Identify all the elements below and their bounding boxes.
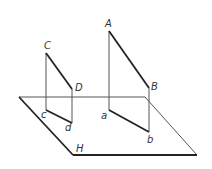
label-A: A [104,18,112,29]
segment-AB [109,31,149,88]
projection-diagram: A B a b C D c d H [0,0,212,169]
segment-ab [109,110,149,132]
label-B: B [151,81,158,92]
label-a: a [101,110,107,121]
label-D: D [75,82,83,93]
label-b: b [147,134,153,145]
plane-right-edge [145,97,197,155]
label-plane-H: H [76,143,84,154]
label-C: C [44,40,51,51]
label-c: c [41,109,47,120]
label-d: d [65,122,72,133]
segment-CD [46,53,72,89]
